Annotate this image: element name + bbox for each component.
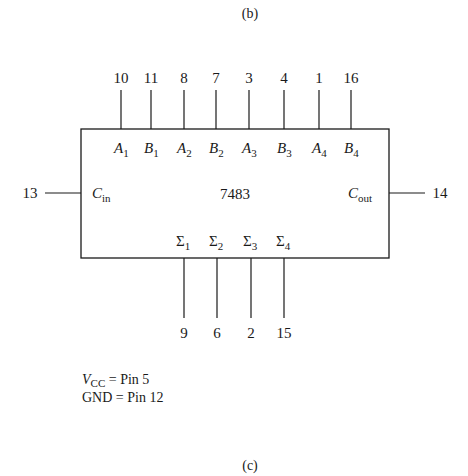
pin-number: 6 <box>213 325 221 341</box>
pin-label: A4 <box>311 140 327 159</box>
pin-number: 15 <box>277 325 292 341</box>
bottom-pin: 15Σ4 <box>276 233 292 341</box>
top-pin: 16B4 <box>344 70 360 159</box>
pin-number: 16 <box>344 70 360 86</box>
pin-label: Cout <box>348 185 372 204</box>
pin-carry-in: 13 Cin <box>23 185 112 204</box>
pin-label: Σ2 <box>209 233 223 252</box>
top-pin: 8A2 <box>176 70 192 159</box>
pin-label: A1 <box>113 140 129 159</box>
caption-c: (c) <box>242 458 258 474</box>
top-pin: 1A4 <box>311 70 327 159</box>
caption-b: (b) <box>242 6 259 22</box>
top-pins: 10A111B18A27B23A34B31A416B4 <box>113 70 359 159</box>
vcc-note: VCC = Pin 5 <box>82 372 149 389</box>
pin-label: B3 <box>277 140 292 159</box>
pin-number: 11 <box>144 70 158 86</box>
pin-label: Σ3 <box>243 233 258 252</box>
bottom-pins: 9Σ16Σ22Σ315Σ4 <box>176 233 292 341</box>
pin-number: 14 <box>433 185 449 201</box>
top-pin: 3A3 <box>241 70 257 159</box>
pin-number: 10 <box>114 70 129 86</box>
bottom-pin: 6Σ2 <box>209 233 223 341</box>
top-pin: 10A1 <box>113 70 129 159</box>
bottom-pin: 9Σ1 <box>176 233 190 341</box>
pin-number: 7 <box>212 70 220 86</box>
chip-name: 7483 <box>220 186 250 202</box>
pin-label: A2 <box>176 140 192 159</box>
pin-carry-out: 14 Cout <box>348 185 448 204</box>
adder-7483-diagram: (b) (c) 7483 10A111B18A27B23A34B31A416B4… <box>0 0 468 476</box>
pin-label: Σ1 <box>176 233 190 252</box>
pin-label: B1 <box>144 140 159 159</box>
pin-number: 8 <box>180 70 188 86</box>
pin-number: 1 <box>315 70 323 86</box>
pin-label: Σ4 <box>276 233 291 252</box>
pin-label: Cin <box>92 185 111 204</box>
pin-label: B4 <box>344 140 359 159</box>
pin-number: 13 <box>23 185 38 201</box>
top-pin: 7B2 <box>209 70 224 159</box>
top-pin: 4B3 <box>277 70 292 159</box>
pin-label: A3 <box>241 140 257 159</box>
pin-number: 2 <box>247 325 255 341</box>
pin-number: 9 <box>180 325 188 341</box>
pin-number: 3 <box>245 70 253 86</box>
pin-number: 4 <box>280 70 288 86</box>
pin-label: B2 <box>209 140 224 159</box>
bottom-pin: 2Σ3 <box>243 233 258 341</box>
top-pin: 11B1 <box>144 70 159 159</box>
gnd-note: GND = Pin 12 <box>82 390 163 405</box>
